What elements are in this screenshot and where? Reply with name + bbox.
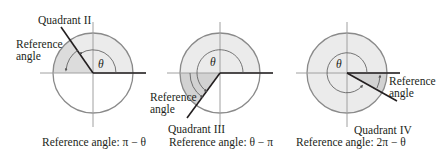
panel-quadrant-iv [296, 22, 400, 127]
quadrant-iv-label: Quadrant IV [354, 124, 412, 136]
reference-angle-label-2b: angle [150, 103, 175, 115]
panel-quadrant-iii [167, 22, 273, 127]
reference-angle-label-3b: angle [389, 87, 414, 99]
theta-label-2: θ [210, 56, 216, 68]
quadrant-iii-label: Quadrant III [168, 123, 225, 135]
theta-label-1: θ [98, 58, 104, 70]
reference-angle-label-1b: angle [16, 50, 41, 62]
reference-angle-label-3a: Reference [389, 75, 436, 87]
caption-1: Reference angle: π − θ [42, 136, 146, 148]
reference-angle-label-1a: Reference [16, 38, 63, 50]
quadrant-ii-label: Quadrant II [38, 14, 91, 26]
theta-label-3: θ [336, 58, 342, 70]
reference-angle-label-2a: Reference [150, 91, 197, 103]
caption-2: Reference angle: θ − π [169, 136, 273, 148]
caption-3: Reference angle: 2π − θ [296, 136, 406, 148]
